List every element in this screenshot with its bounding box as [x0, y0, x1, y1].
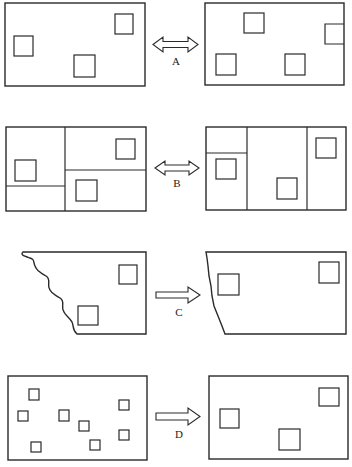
right-arrow-icon [156, 408, 200, 425]
panel-frame-irregular [206, 252, 346, 334]
panel-a-right [205, 3, 344, 85]
row-a: A [5, 3, 344, 86]
panel-b-left [6, 127, 146, 211]
row-b: B [6, 127, 346, 211]
panel-a-left [5, 3, 145, 86]
arrow-label-b: B [173, 177, 180, 189]
panel-frame [205, 3, 344, 85]
row-d: D [8, 376, 348, 460]
double-arrow-icon [153, 37, 198, 52]
arrow-label-c: C [175, 306, 182, 318]
panel-frame [206, 127, 346, 210]
panel-frame [5, 3, 145, 86]
double-arrow-icon [155, 161, 199, 175]
arrow-label-d: D [175, 428, 183, 440]
arrow-label-a: A [172, 55, 180, 67]
panel-frame-wavy [22, 252, 146, 334]
panel-d-left [8, 376, 147, 460]
diagram-canvas: A B [0, 0, 352, 467]
panel-d-right [209, 376, 348, 459]
row-c: C [22, 252, 346, 334]
panel-c-right [206, 252, 346, 334]
panel-b-right [206, 127, 346, 210]
right-arrow-icon [156, 287, 200, 303]
panel-c-left [22, 252, 146, 334]
